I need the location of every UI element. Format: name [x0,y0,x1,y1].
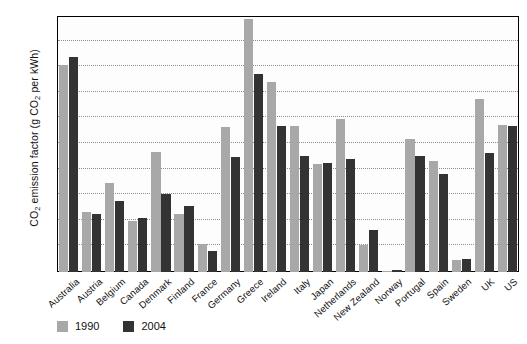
y-axis-title-post: per kWh) [28,49,40,95]
y-axis-title-sub-1: 2 [33,207,42,211]
bar-group [173,16,196,272]
bar-italy-1990 [290,126,299,272]
bar-sweden-2004 [462,259,471,272]
bar-group [265,16,288,272]
bar-group [450,16,473,272]
bar-ireland-1990 [267,82,276,272]
bar-ireland-2004 [277,126,286,272]
bar-germany-2004 [231,157,240,272]
bar-denmark-1990 [151,152,160,272]
bar-group [103,16,126,272]
bar-group [149,16,172,272]
bar-group [57,16,80,272]
bar-group [80,16,103,272]
bar-group [196,16,219,272]
bar-greece-2004 [254,74,263,272]
bar-uk-2004 [485,153,494,272]
x-tick-label-us: US [502,276,519,293]
bar-group [357,16,380,272]
bar-denmark-2004 [161,194,170,272]
bar-us-2004 [508,126,517,272]
co2-emission-factor-bar-chart: CO2 emission factor (g CO2 per kWh) 0100… [0,0,527,344]
bar-group [219,16,242,272]
bar-austria-2004 [92,214,101,272]
bar-sweden-1990 [452,260,461,272]
bar-us-1990 [498,125,507,272]
bar-finland-2004 [184,206,193,272]
legend-label-2004: 2004 [141,320,165,332]
bar-group [311,16,334,272]
bar-netherlands-1990 [336,119,345,272]
bar-group [427,16,450,272]
bar-france-2004 [208,251,217,272]
bars-layer [57,16,519,272]
bar-new-zealand-2004 [369,230,378,272]
y-axis-title-sub-2: 2 [33,96,42,100]
bar-finland-1990 [174,214,183,272]
legend-item-2004: 2004 [123,320,165,332]
bar-japan-1990 [313,164,322,272]
bar-group [473,16,496,272]
x-tick-label-ireland: Ireland [259,276,289,304]
x-tick-label-australia: Australia [45,276,81,310]
bar-group [334,16,357,272]
bar-australia-2004 [69,57,78,272]
y-axis-title-mid: emission factor (g CO [28,100,40,207]
bar-italy-2004 [300,156,309,272]
y-axis-title: CO2 emission factor (g CO2 per kWh) [28,8,40,268]
bar-spain-1990 [429,161,438,272]
bar-spain-2004 [439,174,448,272]
y-axis-title-pre: CO [28,211,40,227]
bar-group [404,16,427,272]
bar-austria-1990 [82,212,91,272]
bar-uk-1990 [475,99,484,272]
bar-australia-1990 [59,65,68,272]
bar-japan-2004 [323,163,332,272]
x-axis-tick-labels: AustraliaAustriaBelgiumCanadaDenmarkFinl… [0,272,527,320]
bar-netherlands-2004 [346,159,355,272]
legend-swatch-2004 [123,321,134,332]
bar-greece-1990 [244,19,253,272]
chart-legend: 19902004 [57,320,166,332]
legend-swatch-1990 [57,321,68,332]
bar-group [288,16,311,272]
bar-group [242,16,265,272]
bar-new-zealand-1990 [359,245,368,272]
bar-belgium-1990 [105,183,114,272]
bar-group [380,16,403,272]
bar-belgium-2004 [115,201,124,272]
bar-portugal-1990 [405,139,414,272]
legend-label-1990: 1990 [75,320,99,332]
bar-france-1990 [198,244,207,272]
x-tick-label-uk: UK [479,276,496,293]
bar-group [126,16,149,272]
bar-canada-2004 [138,218,147,272]
legend-item-1990: 1990 [57,320,99,332]
bar-portugal-2004 [415,156,424,272]
bar-germany-1990 [221,127,230,272]
bar-group [496,16,519,272]
bar-canada-1990 [128,221,137,272]
